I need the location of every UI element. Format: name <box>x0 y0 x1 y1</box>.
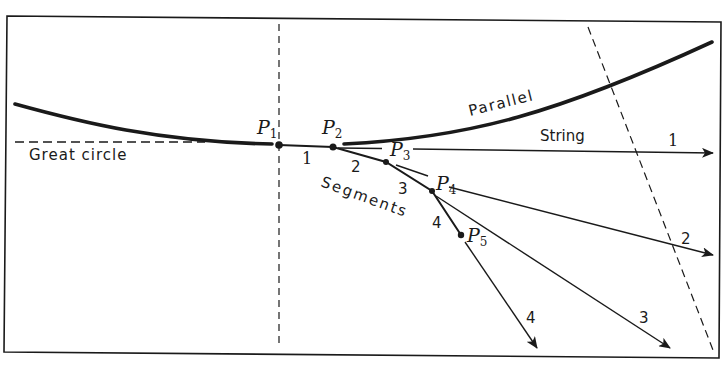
slanted-dashed-line <box>588 27 713 350</box>
segments-label: Segments <box>319 173 411 221</box>
segment-number-1: 1 <box>302 149 312 168</box>
string-2-arrow <box>449 187 713 255</box>
label-p5-name: P <box>466 224 481 246</box>
label-p3-sub: 3 <box>403 149 411 163</box>
string-number-4: 4 <box>526 309 536 327</box>
great-circle-label: Great circle <box>29 146 127 164</box>
label-p4-name: P <box>435 172 450 194</box>
string-3-arrow <box>436 196 670 348</box>
string-number-1: 1 <box>668 131 678 150</box>
label-p4: P4 <box>435 172 457 197</box>
string-number-3: 3 <box>639 309 649 327</box>
string-number-2: 2 <box>681 230 691 248</box>
point-p4 <box>429 188 435 194</box>
segment-number-2: 2 <box>351 158 361 176</box>
string-label: String <box>540 127 585 145</box>
label-p2-name: P <box>321 116 336 138</box>
label-p1: P1 <box>256 116 277 141</box>
point-p3 <box>383 159 389 165</box>
label-p1-sub: 1 <box>270 127 278 141</box>
label-p4-sub: 4 <box>449 183 457 197</box>
label-p5-sub: 5 <box>480 235 488 249</box>
label-p1-name: P <box>256 116 271 138</box>
string-4-arrow <box>465 242 537 348</box>
label-p2: P2 <box>321 116 342 141</box>
parallel-curve-left <box>15 104 272 144</box>
segment-number-3: 3 <box>398 180 408 198</box>
label-p3-name: P <box>389 138 404 160</box>
great-circle-parallel-diagram: P1 P2 P3 P4 P5 1 2 3 4 1 2 3 4 Great cir… <box>0 0 728 365</box>
string-1-stub <box>338 148 382 149</box>
label-p2-sub: 2 <box>335 127 343 141</box>
point-p1 <box>275 141 283 149</box>
point-p2 <box>330 144 337 151</box>
label-p3: P3 <box>389 138 410 163</box>
segment-number-4: 4 <box>432 214 442 232</box>
point-p5 <box>458 232 464 238</box>
